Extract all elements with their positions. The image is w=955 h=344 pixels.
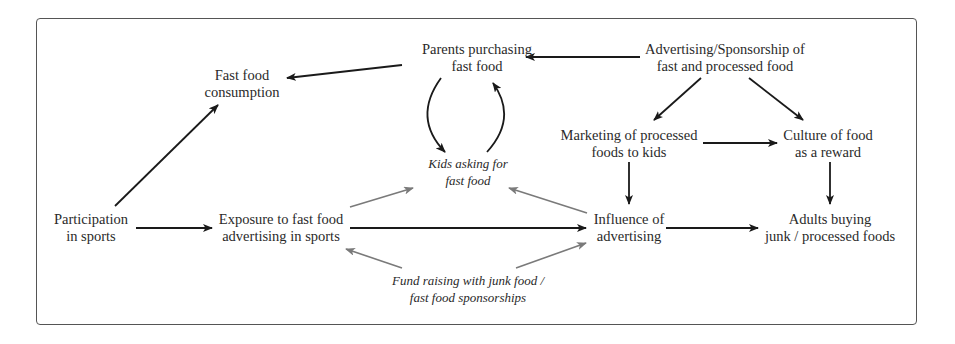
node-fast-food-consumption: Fast food consumption (205, 67, 280, 101)
node-kids-asking: Kids asking for fast food (428, 155, 507, 189)
node-line: consumption (205, 84, 280, 101)
edge-advertising-to-culture (749, 78, 803, 120)
node-advertising-sponsorship: Advertising/Sponsorship of fast and proc… (645, 41, 805, 75)
node-line: advertising (594, 228, 664, 245)
edge-fundraising-to-influence (516, 243, 586, 268)
edge-parents-to-kids-curved (427, 78, 445, 152)
node-culture-food-reward: Culture of food as a reward (783, 127, 872, 161)
edge-fundraising-to-exposure (346, 249, 402, 268)
node-line: Advertising/Sponsorship of (645, 41, 805, 58)
edge-parents-to-consumption (287, 65, 402, 78)
node-line: fast food (428, 172, 507, 189)
node-participation-sports: Participation in sports (54, 211, 128, 245)
node-line: as a reward (783, 144, 872, 161)
edge-participation-to-consumption (115, 105, 218, 206)
node-line: fast and processed food (645, 58, 805, 75)
node-line: Kids asking for (428, 155, 507, 172)
node-line: Fast food (205, 67, 280, 84)
node-line: Fund raising with junk food / (392, 272, 544, 289)
node-line: Parents purchasing (422, 41, 532, 58)
edge-advertising-to-marketing (654, 78, 701, 120)
node-line: advertising in sports (219, 228, 343, 245)
node-adults-buying: Adults buying junk / processed foods (765, 211, 895, 245)
node-exposure-advertising: Exposure to fast food advertising in spo… (219, 211, 343, 245)
node-line: junk / processed foods (765, 228, 895, 245)
node-line: Marketing of processed (561, 127, 698, 144)
node-line: Participation (54, 211, 128, 228)
edge-exposure-to-kids (350, 188, 413, 207)
node-line: foods to kids (561, 144, 698, 161)
node-influence-advertising: Influence of advertising (594, 211, 664, 245)
edge-kids-to-parents-curved (487, 83, 504, 152)
node-line: in sports (54, 228, 128, 245)
node-line: Influence of (594, 211, 664, 228)
node-line: Adults buying (765, 211, 895, 228)
node-marketing-to-kids: Marketing of processed foods to kids (561, 127, 698, 161)
node-line: Exposure to fast food (219, 211, 343, 228)
node-parents-purchasing: Parents purchasing fast food (422, 41, 532, 75)
node-line: fast food (422, 58, 532, 75)
node-line: fast food sponsorships (392, 289, 544, 306)
node-fund-raising: Fund raising with junk food / fast food … (392, 272, 544, 306)
edge-influence-to-kids (509, 188, 587, 213)
node-line: Culture of food (783, 127, 872, 144)
